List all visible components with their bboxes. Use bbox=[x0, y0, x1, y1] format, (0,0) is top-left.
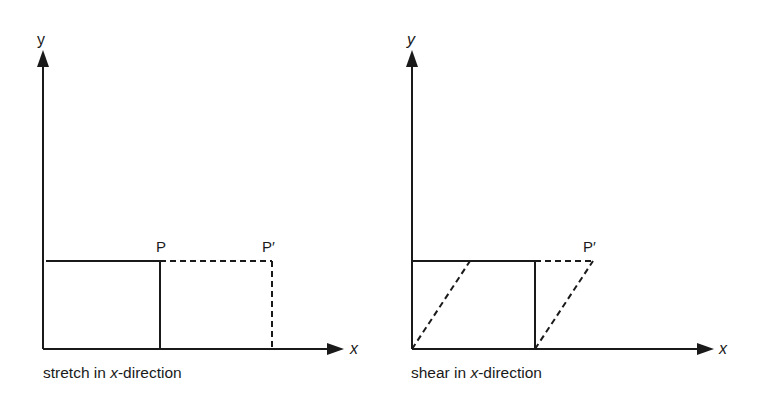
y-axis-arrow-icon bbox=[406, 50, 418, 67]
sheared-right-edge bbox=[535, 261, 593, 349]
y-axis-label: y bbox=[407, 32, 415, 48]
x-axis-label: x bbox=[350, 341, 358, 357]
x-axis-label: x bbox=[719, 341, 727, 357]
x-axis-arrow-icon bbox=[327, 343, 344, 355]
y-axis-arrow-icon bbox=[37, 50, 49, 67]
point-p-prime-label: P′ bbox=[262, 239, 275, 254]
stretch-diagram: y x P P′ stretch in x-direction bbox=[0, 0, 382, 402]
shear-diagram: y x P′ shear in x-direction bbox=[382, 0, 764, 402]
y-axis-label: y bbox=[37, 32, 45, 48]
point-p-prime-label: P′ bbox=[583, 239, 596, 254]
sheared-left-edge bbox=[412, 261, 470, 349]
x-axis-arrow-icon bbox=[697, 343, 714, 355]
stretch-caption: stretch in x-direction bbox=[43, 364, 182, 382]
shear-caption: shear in x-direction bbox=[411, 364, 542, 382]
point-p-label: P bbox=[156, 239, 166, 254]
shear-diagram-graphic bbox=[382, 0, 764, 402]
stretch-diagram-graphic bbox=[0, 0, 382, 402]
